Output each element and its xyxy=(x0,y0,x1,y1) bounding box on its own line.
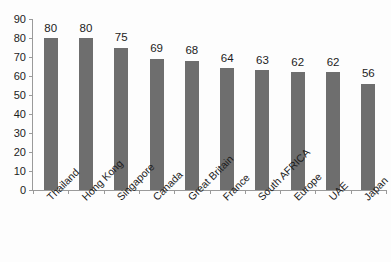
x-tick-mark xyxy=(174,190,175,194)
bar-value-label: 62 xyxy=(291,57,304,69)
y-tick-label: 30 xyxy=(14,128,26,139)
y-tick-label: 20 xyxy=(14,147,26,158)
y-tick-label: 80 xyxy=(14,33,26,44)
bar-slot: 62 xyxy=(315,19,350,190)
bar-value-label: 75 xyxy=(115,32,128,44)
y-tick-label: 10 xyxy=(14,166,26,177)
bar-value-label: 63 xyxy=(256,55,269,67)
x-tick-mark xyxy=(315,190,316,194)
bar-value-label: 68 xyxy=(185,45,198,57)
bar[interactable] xyxy=(185,61,199,190)
x-tick-mark xyxy=(386,190,387,194)
bar-slot: 68 xyxy=(174,19,209,190)
x-tick-mark xyxy=(68,190,69,194)
y-tick-label: 90 xyxy=(14,14,26,25)
bar-value-label: 80 xyxy=(80,23,93,35)
bar-slot: 80 xyxy=(33,19,68,190)
x-tick-mark xyxy=(245,190,246,194)
bar-value-label: 69 xyxy=(150,43,163,55)
x-tick-mark xyxy=(139,190,140,194)
x-tick-mark xyxy=(210,190,211,194)
x-tick-mark xyxy=(280,190,281,194)
bar[interactable] xyxy=(326,72,340,190)
x-tick-mark xyxy=(104,190,105,194)
y-tick-label: 40 xyxy=(14,109,26,120)
bar[interactable] xyxy=(44,38,58,190)
bar-chart: 0102030405060708090 80807569686463626256… xyxy=(0,0,391,262)
y-tick-label: 60 xyxy=(14,71,26,82)
x-tick-mark xyxy=(351,190,352,194)
x-tick-mark xyxy=(33,190,34,194)
bar[interactable] xyxy=(361,84,375,190)
bar-slot: 56 xyxy=(351,19,386,190)
bar-slot: 63 xyxy=(245,19,280,190)
bar[interactable] xyxy=(255,70,269,190)
plot-area: 0102030405060708090 80807569686463626256 xyxy=(33,19,386,190)
y-tick-label: 70 xyxy=(14,52,26,63)
bar-value-label: 64 xyxy=(221,53,234,65)
bar-value-label: 62 xyxy=(327,57,340,69)
y-tick-label: 0 xyxy=(20,185,26,196)
bar-value-label: 80 xyxy=(44,23,57,35)
bar[interactable] xyxy=(79,38,93,190)
bar-slot: 80 xyxy=(68,19,103,190)
y-tick-label: 50 xyxy=(14,90,26,101)
bar-value-label: 56 xyxy=(362,68,375,80)
